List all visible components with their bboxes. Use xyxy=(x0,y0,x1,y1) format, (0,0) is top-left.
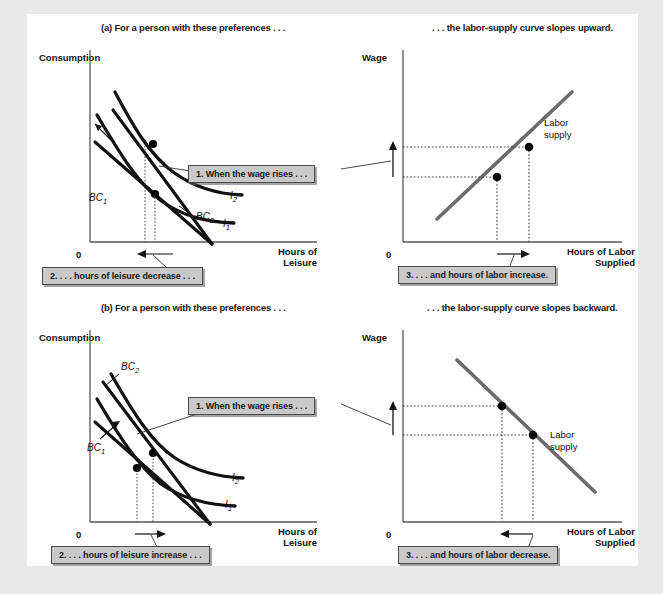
panel-a-left-plot xyxy=(27,14,347,284)
labor-supply-label-line1: Labor xyxy=(544,117,568,128)
callout-1-leader-line-right xyxy=(341,161,391,169)
panel-b-left: (b) For a person with these preferences … xyxy=(27,294,347,566)
curve-label-bc2: BC2 xyxy=(196,211,214,225)
labor-supply-curve xyxy=(457,360,595,492)
panel-a-right-plot xyxy=(347,14,638,284)
hours-increase-arrowhead-icon xyxy=(521,250,530,258)
labor-supply-label-line1: Labor xyxy=(550,429,574,440)
supply-point-high-wage xyxy=(498,402,507,411)
optimum-point-new xyxy=(149,140,157,148)
panel-a-left: (a) For a person with these preferences … xyxy=(27,14,347,284)
callout-leisure-increase: 2. . . . hours of leisure increase . . . xyxy=(51,546,210,564)
bc1-text: BC xyxy=(87,442,101,453)
callout-wage-rises-bottom: 1. When the wage rises . . . xyxy=(188,397,315,415)
labor-supply-curve xyxy=(437,92,572,219)
bc1-subscript: 1 xyxy=(101,447,105,456)
callout-labor-increase: 3. . . . and hours of labor increase. xyxy=(398,266,556,284)
callout-leisure-decrease: 2. . . . hours of leisure decrease . . . xyxy=(42,267,203,285)
callout-3-leader-line xyxy=(510,255,514,266)
pivot-arrow-icon xyxy=(100,424,117,439)
supply-point-low xyxy=(493,173,502,182)
figure-card: (a) For a person with these preferences … xyxy=(27,14,638,566)
leisure-decrease-arrowhead-icon xyxy=(137,250,146,258)
curve-label-i2: I2 xyxy=(232,472,239,486)
bc2-subscript: 2 xyxy=(135,366,139,375)
bc1-subscript: 1 xyxy=(103,197,107,206)
wage-rise-arrowhead-icon xyxy=(389,141,397,150)
callout-wage-rises-top: 1. When the wage rises . . . xyxy=(188,165,315,183)
curve-label-bc2: BC2 xyxy=(121,361,139,375)
curve-label-bc1: BC1 xyxy=(89,192,107,206)
bc2-text: BC xyxy=(196,211,210,222)
i1-subscript: 1 xyxy=(228,504,232,513)
panel-b-right: . . . the labor-supply curve slopes back… xyxy=(347,294,638,566)
callout-1-leader-line-right xyxy=(341,404,391,425)
i2-subscript: 2 xyxy=(235,477,239,486)
bc2-subscript: 2 xyxy=(210,216,214,225)
wage-rise-arrowhead-icon xyxy=(389,401,397,410)
supply-point-high xyxy=(525,143,534,152)
labor-supply-label-line2: supply xyxy=(544,129,571,140)
hours-decrease-arrowhead-icon xyxy=(500,530,509,538)
curve-label-bc1: BC1 xyxy=(87,442,105,456)
curve-label-i2: I2 xyxy=(230,190,237,204)
indifference-curve-2-path xyxy=(111,374,243,478)
labor-supply-label: Labor supply xyxy=(550,429,577,452)
i2-subscript: 2 xyxy=(233,195,237,204)
callout-3-leader-line xyxy=(529,535,533,546)
panel-a-right: . . . the labor-supply curve slopes upwa… xyxy=(347,14,638,284)
labor-supply-label: Labor supply xyxy=(544,117,571,140)
supply-point-low-wage xyxy=(529,431,538,440)
leisure-increase-arrowhead-icon xyxy=(157,530,166,538)
bc2-text: BC xyxy=(121,361,135,372)
curve-label-i1: I1 xyxy=(223,218,230,232)
bc1-text: BC xyxy=(89,192,103,203)
callout-labor-decrease: 3. . . . and hours of labor decrease. xyxy=(398,546,558,564)
panel-b-right-plot xyxy=(347,294,638,566)
panel-b-left-plot xyxy=(27,294,347,566)
labor-supply-label-line2: supply xyxy=(550,441,577,452)
i1-subscript: 1 xyxy=(226,223,230,232)
curve-label-i1: I1 xyxy=(225,499,232,513)
